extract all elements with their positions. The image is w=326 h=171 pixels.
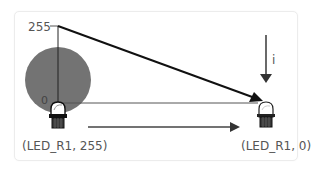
current-label: i [272,54,275,66]
start-state-caption: (LED_R1, 255) [22,140,107,152]
led-off-icon [257,102,275,127]
axis-min-label: 0 [41,95,48,106]
current-arrow-icon [260,35,272,83]
end-state-caption: (LED_R1, 0) [241,140,311,152]
transition-arrow-icon [88,122,240,132]
axis-max-label: 255 [28,21,51,33]
led-on-icon [49,102,67,128]
